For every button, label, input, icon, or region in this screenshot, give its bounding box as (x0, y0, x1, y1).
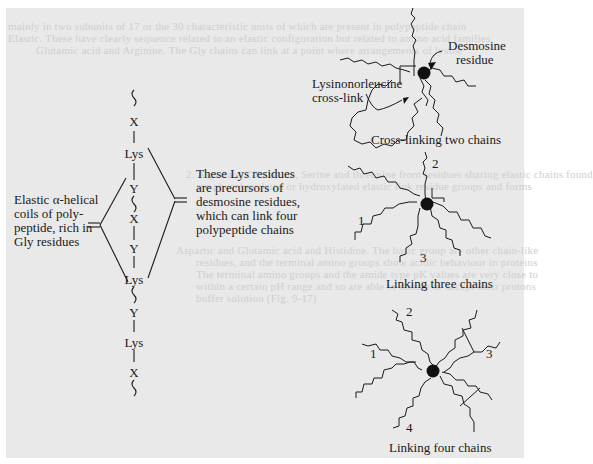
left-annotation: Elastic α-helical coils of poly- peptide… (14, 192, 99, 249)
lysinonorleucine-arrow (366, 94, 409, 110)
residue-x: X (129, 114, 139, 129)
lysinonorleucine-label: Lysinonorleucine (312, 76, 402, 91)
residue-x: X (129, 211, 139, 226)
desmosine-label: Desmosine (448, 38, 506, 53)
lysinonorleucine-label: cross-link (312, 90, 364, 105)
svg-text:desmosine residues,: desmosine residues, (196, 194, 300, 209)
svg-text:which can link four: which can link four (196, 208, 298, 223)
svg-text:peptide, rich in: peptide, rich in (14, 220, 93, 235)
chain-number: 4 (406, 420, 413, 435)
four-chain-labels: 2 1 3 4 Linking four chains (370, 304, 493, 455)
chain-number: 2 (432, 156, 439, 171)
desmosine-node (421, 198, 434, 211)
residue-y: Y (129, 241, 139, 256)
residue-lys: Lys (125, 335, 144, 350)
chain-number: 2 (406, 304, 413, 319)
chain-residue-labels: X Lys Y X Y Lys Y Lys X (125, 114, 144, 380)
residue-lys: Lys (125, 146, 144, 161)
middle-annotation: These Lys residues are precursors of des… (196, 166, 300, 237)
svg-text:coils of poly-: coils of poly- (14, 206, 83, 221)
chain-number: 1 (370, 346, 377, 361)
three-chain-labels: 2 1 3 Linking three chains (358, 156, 493, 291)
svg-text:polypeptide chains: polypeptide chains (196, 222, 294, 237)
residue-x: X (129, 365, 139, 380)
desmosine-node (418, 67, 431, 80)
svg-text:are precursors of: are precursors of (196, 180, 284, 195)
chain-wave-bottom (132, 380, 136, 396)
chain-number: 3 (420, 250, 427, 265)
chain-wave-top (132, 90, 136, 106)
desmosine-node (427, 365, 440, 378)
chain-number: 3 (486, 346, 493, 361)
panel-caption: Cross-linking two chains (371, 132, 501, 147)
svg-text:These Lys residues: These Lys residues (196, 166, 295, 181)
panel-caption: Linking three chains (386, 276, 493, 291)
svg-text:Gly residues: Gly residues (14, 234, 79, 249)
svg-text:Elastic α-helical: Elastic α-helical (14, 192, 99, 207)
chain-number: 1 (358, 213, 365, 228)
residue-lys: Lys (125, 272, 144, 287)
lys-residue-bracket (148, 148, 187, 278)
three-chain-link-panel (348, 152, 491, 262)
panel-caption: Linking four chains (389, 440, 492, 455)
chain-wave-mid (132, 196, 136, 212)
residue-y: Y (129, 305, 139, 320)
residue-y: Y (129, 181, 139, 196)
desmosine-label: residue (456, 52, 494, 67)
desmosine-arrow (428, 51, 442, 70)
chain-wave-lower (132, 287, 136, 303)
